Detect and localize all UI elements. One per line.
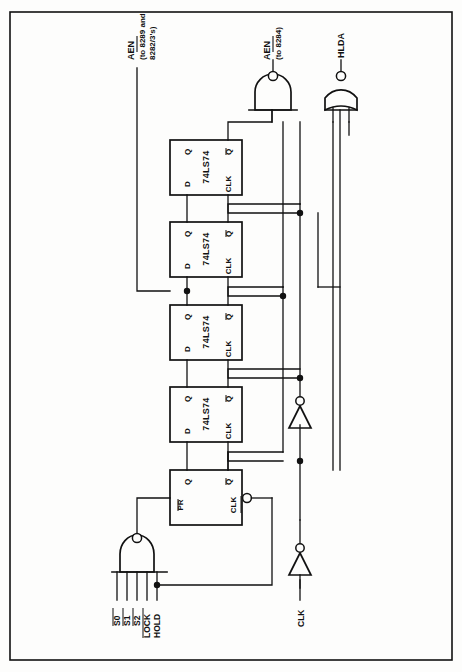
junction-clk-ff3: [297, 375, 303, 381]
ff3-pin-d: D: [183, 346, 192, 352]
aen-8289-text: AEN: [126, 41, 136, 60]
ff5-pin-clk: CLK: [229, 497, 238, 514]
junction-hold: [154, 582, 160, 588]
input-label-clk: CLK: [296, 609, 306, 627]
junction-clk-ff1: [297, 210, 303, 216]
nand-gate-aen-bubble: [268, 71, 277, 80]
ff2-pin-qbar: Q: [224, 231, 233, 237]
schematic-sheet: AEN (to 8289 and 8282/3's) AEN (to 8284)…: [0, 0, 462, 672]
ff3-pin-clk: CLK: [224, 341, 233, 358]
inverter-2-bubble: [296, 544, 304, 552]
ff5-pin-qbar: Q: [224, 479, 233, 485]
ff5-pin-q: Q: [183, 479, 192, 485]
ff1-pin-d: D: [183, 181, 192, 187]
ff2-pin-d: D: [183, 263, 192, 269]
ff3-pin-q: Q: [183, 314, 192, 320]
ff5-pin-pr: PR: [176, 499, 185, 510]
ff4-part-number: 74LS74: [201, 397, 211, 430]
ff4-pin-qbar: Q: [224, 396, 233, 402]
circuit-schematic: AEN (to 8289 and 8282/3's) AEN (to 8284)…: [0, 0, 462, 672]
aen-8284-text: AEN: [262, 41, 272, 60]
flipflop-5-clk-bubble: [243, 494, 252, 503]
ff1-pin-clk: CLK: [224, 176, 233, 193]
output-label-hlda: HLDA: [336, 33, 346, 58]
ff4-pin-q: Q: [183, 396, 192, 402]
nor-gate-hlda-bubble: [336, 71, 345, 80]
ff1-pin-qbar: Q: [224, 149, 233, 155]
ff3-pin-qbar: Q: [224, 314, 233, 320]
ff4-pin-clk: CLK: [224, 423, 233, 440]
aen-8284-sub1: (to 8284): [274, 27, 283, 60]
ff2-pin-clk: CLK: [224, 258, 233, 275]
ff1-pin-q: Q: [183, 149, 192, 155]
aen-8289-sub1: (to 8289 and: [138, 13, 147, 60]
ff3-part-number: 74LS74: [201, 315, 211, 348]
nand-gate-status-bubble: [132, 533, 141, 542]
aen-8289-sub2: 8282/3's): [148, 26, 157, 60]
ff2-part-number: 74LS74: [201, 232, 211, 265]
ff2-pin-q: Q: [183, 231, 192, 237]
input-label-hold: HOLD: [152, 614, 162, 638]
ff4-pin-d: D: [183, 428, 192, 434]
junction-clk-ff2: [280, 293, 286, 299]
junction-aen-8289: [184, 288, 190, 294]
hlda-text: HLDA: [336, 33, 346, 58]
ff1-part-number: 74LS74: [201, 150, 211, 183]
sheet-background: [0, 0, 462, 672]
inverter-1-bubble: [296, 397, 304, 405]
